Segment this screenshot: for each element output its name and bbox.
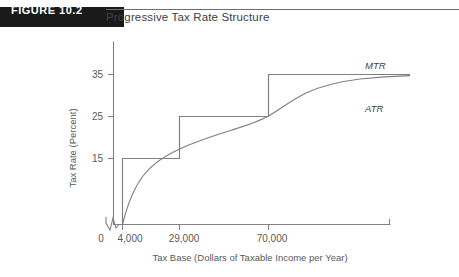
chart-plot-area: 35 25 15 0 4,000 29,000 70,000 MTR ATR T… [0,28,459,277]
mtr-series-label: MTR [365,60,386,71]
figure-container: FIGURE 10.2 Progressive Tax Rate Structu… [0,0,459,277]
y-axis-title: Tax Rate (Percent) [67,108,78,187]
atr-curve-line [123,76,411,225]
y-tick-label-25: 25 [92,111,104,122]
x-axis-break-zigzag [106,217,119,230]
y-tick-label-15: 15 [92,153,104,164]
x-tick-label-70000: 70,000 [257,233,288,244]
header-divider [106,9,459,10]
figure-number-label: FIGURE 10.2 [11,4,83,17]
x-tick-label-29000: 29,000 [169,233,200,244]
tax-rate-chart-svg: 35 25 15 0 4,000 29,000 70,000 MTR ATR T… [0,28,459,277]
x-tick-label-4000: 4,000 [117,233,142,244]
mtr-step-line [123,75,411,225]
figure-title: Progressive Tax Rate Structure [106,11,269,23]
y-tick-label-35: 35 [92,69,104,80]
x-tick-label-0: 0 [98,233,104,244]
x-axis-title: Tax Base (Dollars of Taxable Income per … [152,252,347,263]
atr-series-label: ATR [364,103,383,114]
